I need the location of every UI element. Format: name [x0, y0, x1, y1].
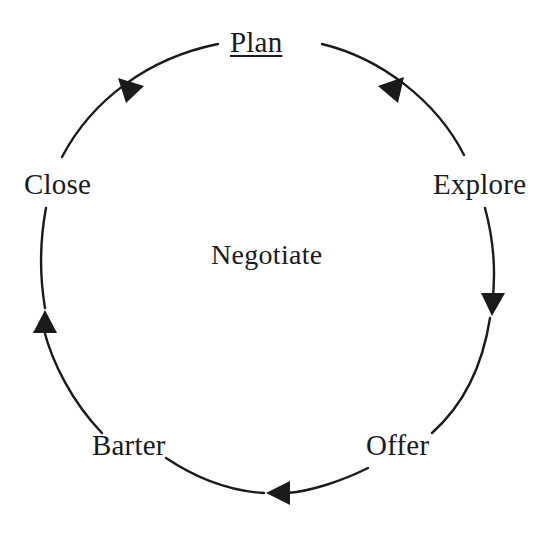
arrowhead-offer-to-barter: [266, 481, 290, 505]
negotiation-cycle-diagram: Plan Explore Offer Barter Close Negotiat…: [0, 0, 542, 543]
stage-label-explore: Explore: [433, 170, 526, 199]
arc-barter-to-close: [33, 208, 102, 433]
stage-label-barter: Barter: [92, 431, 166, 460]
arrowhead-close-to-plan: [118, 78, 144, 103]
arrowhead-barter-to-close: [33, 310, 57, 333]
cycle-arcs-svg: [0, 0, 542, 543]
arc-plan-to-explore: [322, 44, 464, 155]
center-label-negotiate: Negotiate: [211, 241, 323, 269]
stage-label-close: Close: [24, 170, 91, 199]
stage-label-offer: Offer: [366, 431, 429, 460]
arrowhead-plan-to-explore: [378, 77, 404, 103]
arrowhead-explore-to-offer: [481, 293, 505, 316]
arc-explore-to-offer: [432, 208, 505, 433]
stage-label-plan: Plan: [230, 28, 282, 57]
arc-close-to-plan: [62, 44, 218, 157]
arc-offer-to-barter: [166, 458, 368, 505]
